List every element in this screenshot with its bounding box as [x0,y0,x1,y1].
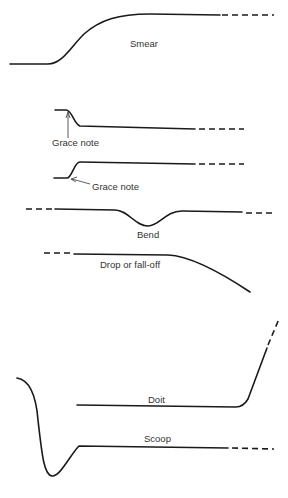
doit-label: Doit [148,394,165,405]
smear-label: Smear [130,38,158,49]
doit-curve: Doit [77,319,279,407]
smear-curve: Smear [10,14,274,64]
bend-label: Bend [137,229,159,240]
grace-note-up-label: Grace note [92,181,139,192]
grace-note-down-label: Grace note [52,137,99,148]
drop-curve: Drop or fall-off [44,253,250,292]
pitch-inflection-diagram: Smear Grace note Grace note Bend Drop or… [0,0,288,498]
bend-curve: Bend [26,209,274,240]
scoop-label: Scoop [144,433,171,444]
grace-note-up-curve: Grace note [54,162,244,192]
drop-label: Drop or fall-off [100,259,160,270]
grace-note-down-curve: Grace note [52,110,244,148]
scoop-curve: Scoop [17,378,274,476]
